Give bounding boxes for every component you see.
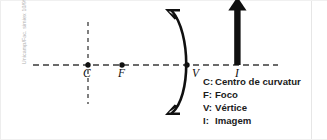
image-arrow-shaft	[234, 8, 240, 65]
legend-key-v: V:	[203, 101, 215, 114]
concave-mirror-arc	[172, 11, 186, 113]
legend-text-v: Vértice	[215, 102, 247, 113]
point-f-label: F	[117, 67, 126, 79]
legend-item-i: I:Imagem	[203, 114, 327, 127]
point-v-marker	[184, 62, 189, 67]
legend-key-i: I:	[203, 114, 215, 127]
legend-item-v: V:Vértice	[203, 101, 327, 114]
legend-key-c: C:	[203, 75, 215, 88]
legend-text-i: Imagem	[215, 115, 251, 126]
point-v-label: V	[192, 67, 201, 79]
mirror-top-tick	[165, 9, 180, 19]
point-c-label: C	[83, 67, 91, 79]
legend-item-c: C:Centro de curvatur	[203, 75, 327, 88]
image-arrow-head	[228, 0, 246, 11]
legend-text-c: Centro de curvatur	[215, 76, 301, 87]
figure-canvas: Unicamp/Fac. simiex 10/99 C F V I C:Cent…	[0, 0, 327, 140]
image-arrow-i	[228, 0, 246, 65]
legend: C:Centro de curvatur F:Foco V:Vértice I:…	[203, 75, 327, 127]
legend-key-f: F:	[203, 88, 215, 101]
legend-item-f: F:Foco	[203, 88, 327, 101]
legend-text-f: Foco	[215, 89, 238, 100]
mirror-bottom-tick	[165, 105, 180, 115]
